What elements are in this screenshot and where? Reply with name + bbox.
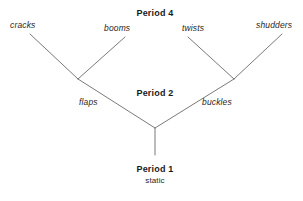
edge-left-node-booms (78, 37, 125, 79)
leaf-label-twists: twists (182, 24, 204, 33)
diagram-canvas: Period 4 Period 2 Period 1 static cracks… (0, 0, 303, 201)
period-marker-4: Period 4 (136, 9, 173, 18)
leaf-label-cracks: cracks (10, 21, 35, 30)
root-sublabel-static: static (145, 177, 164, 185)
branch-label-buckles: buckles (202, 98, 232, 107)
edge-right-node-shudders (234, 34, 282, 79)
branch-label-flaps: flaps (79, 98, 98, 107)
period-marker-1: Period 1 (136, 165, 173, 174)
period-marker-2: Period 2 (136, 89, 173, 98)
edge-left-node-cracks (30, 34, 78, 79)
leaf-label-shudders: shudders (256, 21, 292, 30)
edge-right-node-twists (188, 37, 234, 79)
leaf-label-booms: booms (104, 24, 130, 33)
